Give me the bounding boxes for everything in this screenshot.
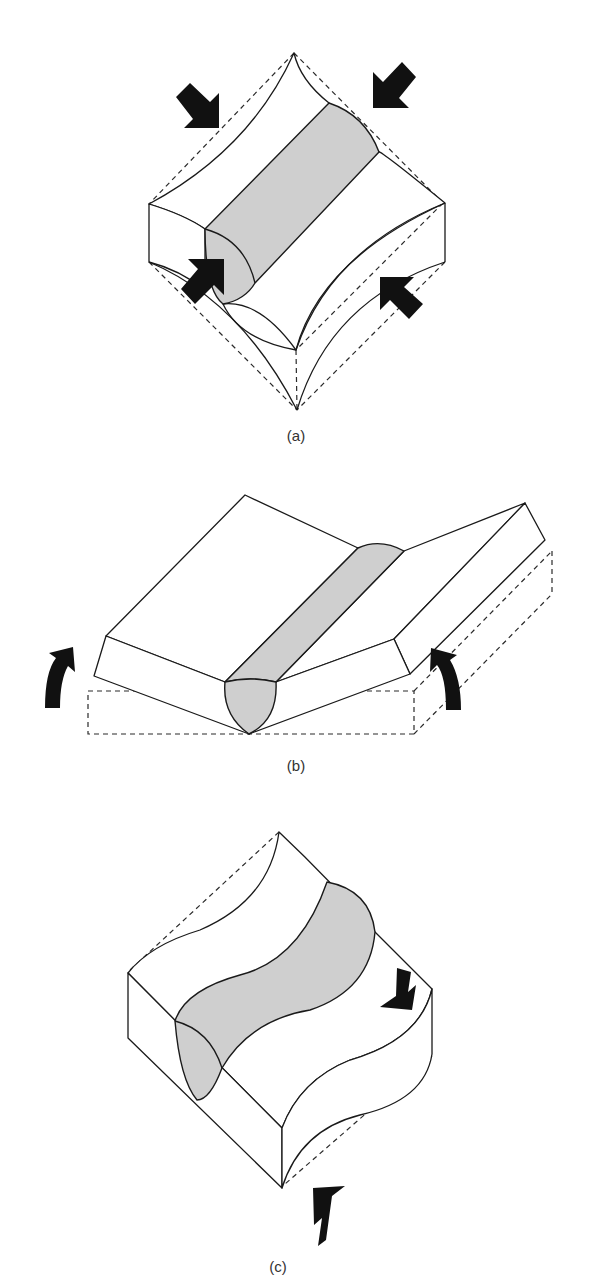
compression-arrow-top-right: [373, 62, 416, 108]
rotation-arrow-right: [430, 648, 461, 710]
panel-c-diagram: [128, 832, 432, 1246]
panel-b-label: (b): [276, 757, 316, 774]
shear-arrow-up: [313, 1186, 345, 1246]
panel-a-label: (a): [276, 427, 316, 444]
panel-c-label: (c): [258, 1258, 298, 1275]
rotation-arrow-left: [45, 647, 75, 708]
panel-b-diagram: [45, 495, 552, 734]
compression-arrow-bottom-right: [380, 277, 423, 319]
compression-arrow-top-left: [176, 83, 219, 128]
panel-a-diagram: [149, 53, 445, 410]
